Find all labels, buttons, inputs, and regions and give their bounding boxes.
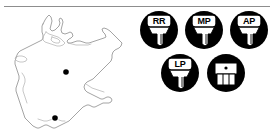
map-inner-detail-southwest [22, 73, 27, 103]
map-inner-detail-west [15, 56, 27, 62]
site-marker-south-dot [52, 115, 58, 121]
figure-container: RR MP AP [0, 0, 273, 134]
tooth-icon-lp[interactable]: LP [160, 53, 200, 93]
tooth-icon-rr[interactable]: RR [139, 10, 179, 50]
tooth-label-plate [237, 15, 261, 27]
tooth-icon-mp[interactable]: MP [184, 10, 224, 50]
tooth-icon-ap[interactable]: AP [229, 10, 269, 50]
tooth-label-plate [168, 58, 192, 70]
molar-roots-shape [217, 74, 235, 85]
horizontal-rule-divider [4, 6, 270, 7]
icon-row-bottom: LP [160, 53, 246, 93]
tooth-icon-panel: RR MP AP [136, 8, 272, 100]
map-svg [2, 10, 134, 132]
site-marker-south[interactable] [52, 115, 59, 122]
tooth-icon-molar-svg [206, 53, 246, 93]
tooth-icon-rr-svg [139, 10, 179, 50]
tooth-label-plate [147, 15, 171, 27]
site-marker-north-dot [63, 69, 69, 75]
tooth-icon-mp-svg [184, 10, 224, 50]
molar-sample-point-dot [224, 66, 227, 69]
tooth-icon-ap-svg [229, 10, 269, 50]
tooth-icon-lp-svg [160, 53, 200, 93]
tooth-icon-molar[interactable] [206, 53, 246, 93]
map-inner-detail-lake [51, 37, 60, 43]
tooth-label-plate [192, 15, 216, 27]
map-inner-detail-southeast [86, 84, 104, 92]
icon-row-top: RR MP AP [139, 10, 269, 50]
site-marker-north[interactable] [63, 69, 70, 76]
germany-outline-map [2, 10, 134, 132]
map-inner-detail-north [43, 32, 65, 46]
